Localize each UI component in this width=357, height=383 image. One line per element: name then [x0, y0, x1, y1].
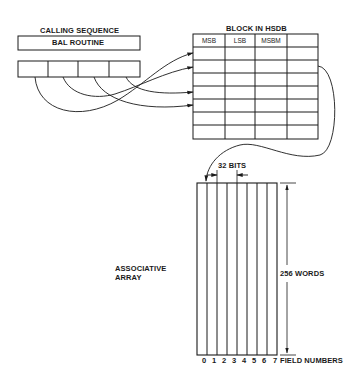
hsdb-table: [193, 34, 318, 139]
parameter-cells: [18, 61, 140, 77]
field-number-5: 5: [252, 357, 256, 365]
associative-array: [197, 183, 277, 355]
field-number-6: 6: [262, 357, 266, 365]
height-label: 256 WORDS: [280, 269, 324, 279]
array-label-line1: ASSOCIATIVE: [115, 265, 166, 273]
pointer-arrows: [35, 53, 193, 112]
field-number-3: 3: [232, 357, 236, 365]
hsdb-title: BLOCK IN HSDB: [226, 25, 287, 33]
array-label-line2: ARRAY: [115, 274, 141, 282]
field-number-0: 0: [202, 357, 206, 365]
field-number-2: 2: [222, 357, 226, 365]
field-number-7: 7: [273, 357, 277, 365]
bal-routine-label: BAL ROUTINE: [52, 39, 104, 47]
field-numbers: 0 1 2 3 4 5 6 7 FIELD NUMBERS: [197, 357, 357, 367]
field-numbers-label: FIELD NUMBERS: [280, 357, 343, 365]
field-number-1: 1: [212, 357, 216, 365]
bits-dimension: [207, 170, 248, 183]
hsdb-col-msbm: MSBM: [255, 38, 287, 45]
hsdb-col-msb: MSB: [193, 38, 225, 45]
diagram-canvas: [0, 0, 357, 383]
width-label: 32 BITS: [218, 162, 246, 170]
calling-sequence-title: CALLING SEQUENCE: [40, 27, 119, 35]
field-number-4: 4: [242, 357, 246, 365]
hsdb-col-lsb: LSB: [225, 38, 255, 45]
